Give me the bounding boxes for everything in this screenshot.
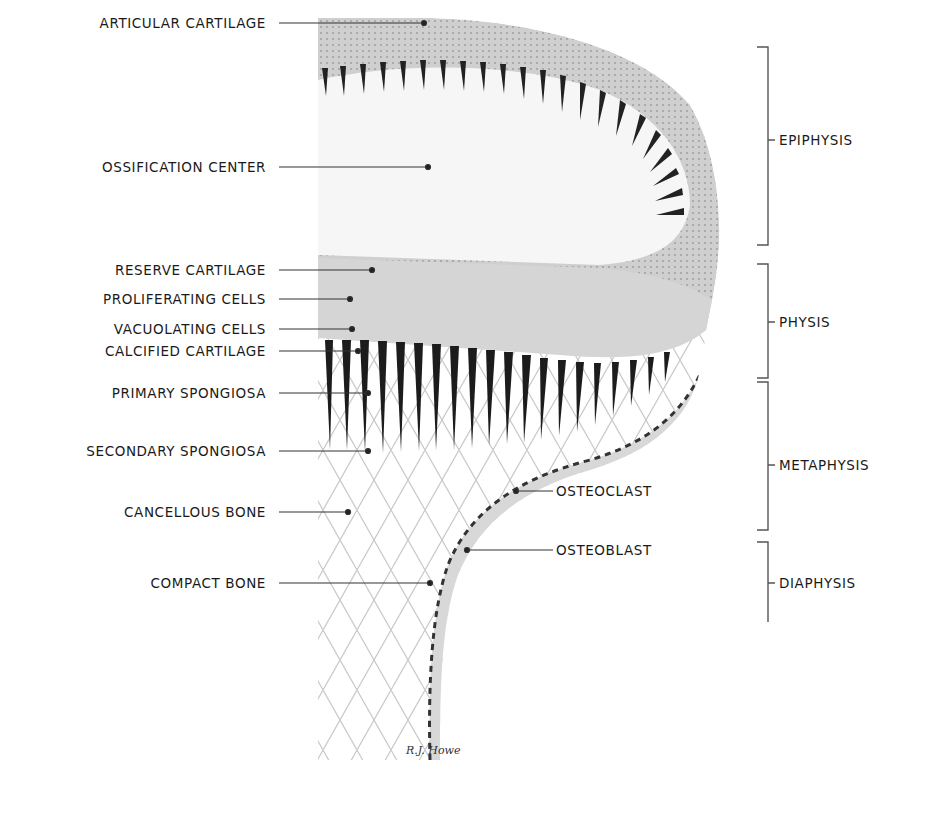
label-articular-cartilage: ARTICULAR CARTILAGE <box>100 15 266 31</box>
label-compact-bone: COMPACT BONE <box>151 575 266 591</box>
label-calcified-cartilage: CALCIFIED CARTILAGE <box>105 343 266 359</box>
label-vacuolating-cells: VACUOLATING CELLS <box>114 321 266 337</box>
bracket-diaphysis <box>757 542 775 622</box>
label-primary-spongiosa: PRIMARY SPONGIOSA <box>112 385 266 401</box>
bone-illustration <box>0 0 925 813</box>
label-osteoblast: OSTEOBLAST <box>556 542 652 558</box>
label-physis: PHYSIS <box>779 314 830 330</box>
bone-section <box>318 18 738 768</box>
label-ossification-center: OSSIFICATION CENTER <box>102 159 266 175</box>
region-brackets <box>757 47 775 622</box>
bracket-metaphysis <box>757 382 775 530</box>
label-secondary-spongiosa: SECONDARY SPONGIOSA <box>86 443 266 459</box>
artist-signature: R.J. Howe <box>406 744 460 757</box>
label-epiphysis: EPIPHYSIS <box>779 132 853 148</box>
label-reserve-cartilage: RESERVE CARTILAGE <box>115 262 266 278</box>
label-diaphysis: DIAPHYSIS <box>779 575 856 591</box>
bracket-epiphysis <box>757 47 775 245</box>
label-osteoclast: OSTEOCLAST <box>556 483 652 499</box>
label-proliferating-cells: PROLIFERATING CELLS <box>103 291 266 307</box>
label-cancellous-bone: CANCELLOUS BONE <box>124 504 266 520</box>
label-metaphysis: METAPHYSIS <box>779 457 869 473</box>
bracket-physis <box>757 264 775 378</box>
